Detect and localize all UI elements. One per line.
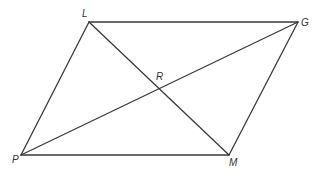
side-GM — [229, 22, 298, 155]
label-M: M — [229, 157, 238, 168]
side-PL — [21, 22, 89, 155]
parallelogram-diagram: L G P M R — [0, 0, 318, 172]
label-G: G — [301, 17, 309, 28]
label-L: L — [82, 8, 88, 19]
diagonal-PG — [21, 22, 298, 155]
segments — [21, 22, 298, 155]
label-P: P — [12, 154, 19, 165]
label-R: R — [156, 71, 163, 82]
